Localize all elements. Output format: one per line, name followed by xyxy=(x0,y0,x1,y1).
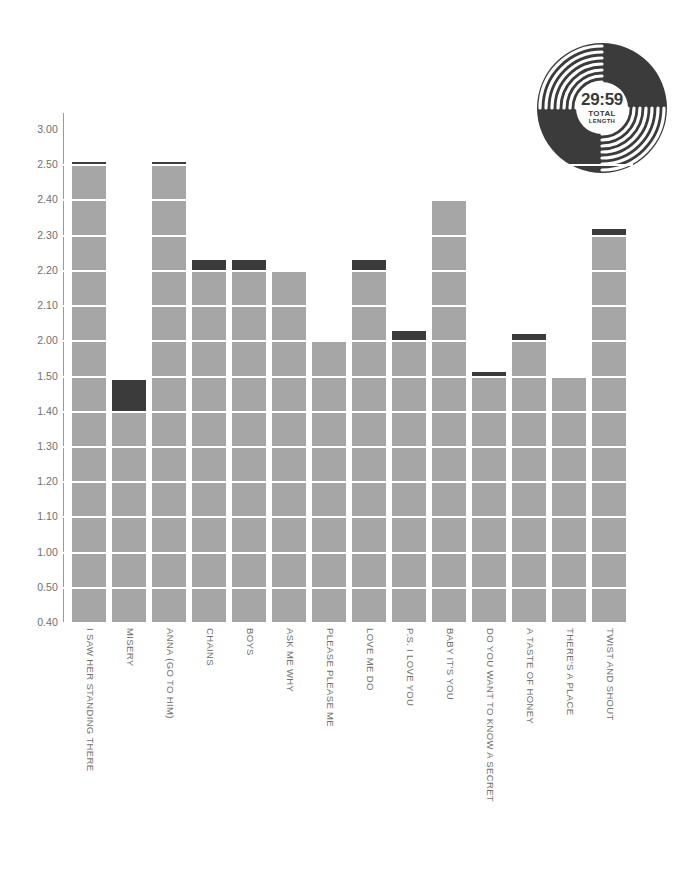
x-tick-label: ASK ME WHY xyxy=(285,628,296,692)
y-axis-labels: 3.002.502.402.302.202.102.001.501.401.30… xyxy=(18,113,58,623)
x-tick-label: TWIST AND SHOUT xyxy=(605,628,616,721)
bar xyxy=(152,162,186,623)
chart-figure: 29:59 TOTAL LENGTH 3.002.502.402.302.202… xyxy=(0,0,683,869)
gridline xyxy=(63,376,633,378)
y-tick-label: 1.30 xyxy=(20,440,58,452)
y-tick-label: 2.10 xyxy=(20,299,58,311)
y-tick-label: 1.20 xyxy=(20,475,58,487)
gridline xyxy=(63,270,633,272)
x-tick-label: P.S. I LOVE YOU xyxy=(405,628,416,706)
y-tick-label: 2.50 xyxy=(20,158,58,170)
gridline xyxy=(63,622,633,624)
x-tick-label: MISERY xyxy=(125,628,136,666)
y-tick-label: 2.00 xyxy=(20,334,58,346)
gridline xyxy=(63,446,633,448)
x-tick-label: BOYS xyxy=(245,628,256,656)
y-tick-label: 1.00 xyxy=(20,546,58,558)
x-tick-label: DO YOU WANT TO KNOW A SECRET xyxy=(485,628,496,802)
gridline xyxy=(63,411,633,413)
x-tick-label: PLEASE PLEASE ME xyxy=(325,628,336,727)
x-tick-label: THERE'S A PLACE xyxy=(565,628,576,715)
bar xyxy=(592,229,626,623)
x-tick-label: I SAW HER STANDING THERE xyxy=(85,628,96,771)
bar xyxy=(352,260,386,623)
gridline xyxy=(63,199,633,201)
bar-cap-segment xyxy=(112,380,146,412)
y-tick-label: 0.40 xyxy=(20,616,58,628)
y-tick-label: 1.40 xyxy=(20,405,58,417)
gridline xyxy=(63,587,633,589)
bar xyxy=(192,260,226,623)
x-tick-label: ANNA (GO TO HIM) xyxy=(165,628,176,719)
y-tick-label: 0.50 xyxy=(20,581,58,593)
gridline xyxy=(63,340,633,342)
bar-body-segment xyxy=(592,236,626,623)
y-tick-label: 2.20 xyxy=(20,264,58,276)
gridline xyxy=(63,516,633,518)
y-tick-label: 3.00 xyxy=(20,123,58,135)
bar xyxy=(472,372,506,623)
x-tick-label: A TASTE OF HONEY xyxy=(525,628,536,724)
gridline xyxy=(63,305,633,307)
y-tick-label: 2.30 xyxy=(20,229,58,241)
bar xyxy=(232,260,266,623)
x-tick-label: CHAINS xyxy=(205,628,216,666)
x-tick-label: BABY IT'S YOU xyxy=(445,628,456,700)
y-axis-line xyxy=(63,113,64,623)
gridline xyxy=(63,164,633,166)
gridline xyxy=(63,481,633,483)
gridline xyxy=(63,552,633,554)
x-tick-label: LOVE ME DO xyxy=(365,628,376,691)
gridline xyxy=(63,235,633,237)
bar xyxy=(72,162,106,623)
y-tick-label: 2.40 xyxy=(20,193,58,205)
plot-area xyxy=(63,113,633,623)
y-tick-label: 1.10 xyxy=(20,510,58,522)
bar xyxy=(512,334,546,623)
x-axis-labels: I SAW HER STANDING THEREMISERYANNA (GO T… xyxy=(63,628,633,843)
y-tick-label: 1.50 xyxy=(20,370,58,382)
